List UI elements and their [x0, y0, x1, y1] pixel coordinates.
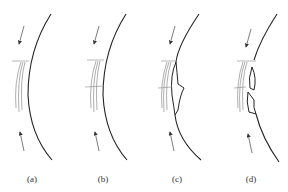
panel-d: [234, 14, 279, 162]
panel-label-c: (c): [172, 174, 182, 184]
panel-b: [85, 14, 127, 160]
panel-a: [12, 14, 52, 160]
panel-c: [158, 14, 201, 160]
panel-label-a: (a): [27, 174, 37, 184]
panel-label-d: (d): [246, 174, 257, 184]
diagram-canvas: [0, 0, 288, 192]
panel-label-b: (b): [98, 174, 109, 184]
